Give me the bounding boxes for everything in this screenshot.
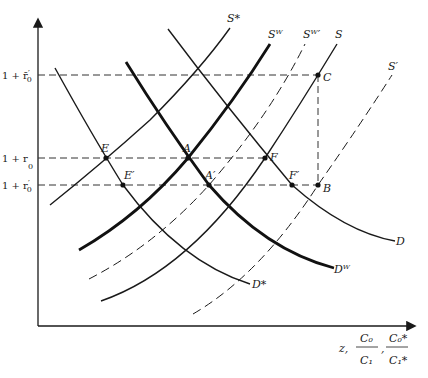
curve-label: S*	[227, 12, 241, 25]
curve-dw	[126, 62, 334, 268]
curve-label: Sᵂ	[268, 28, 284, 41]
point-marker	[185, 155, 190, 160]
curve-d	[55, 68, 250, 284]
x-axis-label: z, C₀ C₁ , C₀* C₁*	[338, 332, 408, 367]
supply-demand-diagram: D*DᵂDS*SᵂSᵂ′SS′ EAFE′A′F′BC 1 + r̄′01 + …	[0, 0, 428, 378]
point-label: A′	[204, 169, 216, 182]
point-marker	[289, 182, 294, 187]
point-marker	[315, 182, 320, 187]
x-label-frac1-num: C₀	[360, 332, 373, 345]
point-label: E	[100, 142, 109, 155]
y-tick-label: 1 + r′0	[2, 178, 32, 194]
curve-label: D	[395, 235, 405, 248]
curve-s	[101, 44, 337, 301]
point-label: B	[322, 182, 331, 195]
curves: D*DᵂDS*SᵂSᵂ′SS′	[50, 12, 405, 314]
point-label: F′	[288, 169, 300, 182]
point-marker	[120, 182, 125, 187]
curve-d	[168, 29, 395, 241]
x-label-frac1-den: C₁	[360, 354, 373, 367]
curve-label: Dᵂ	[333, 263, 351, 276]
y-tick-label: 1 + r̄′0	[2, 68, 32, 84]
point-label: A	[182, 142, 191, 155]
y-tick-label: 1 + r0	[2, 153, 33, 171]
x-label-sep: ,	[381, 342, 385, 355]
point-label: F	[269, 151, 278, 164]
x-label-prefix: z,	[338, 342, 348, 355]
curve-label: D*	[251, 278, 267, 291]
y-axis-ticks: 1 + r̄′01 + r01 + r′0	[2, 68, 33, 194]
point-marker	[103, 155, 108, 160]
x-label-frac2-num: C₀*	[389, 332, 408, 345]
point-marker	[262, 155, 267, 160]
point-label: E′	[123, 169, 135, 182]
curve-label: S′	[388, 60, 399, 73]
point-label: C	[323, 71, 332, 84]
point-marker	[315, 72, 320, 77]
curve-label: S	[335, 28, 343, 41]
point-marker	[206, 182, 211, 187]
x-label-frac2-den: C₁*	[389, 354, 408, 367]
curve-label: Sᵂ′	[303, 28, 321, 41]
